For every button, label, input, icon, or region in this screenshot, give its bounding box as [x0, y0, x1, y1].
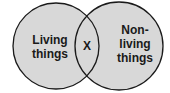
- non-living-things-label: Non- living things: [110, 23, 160, 65]
- intersection-label: X: [80, 39, 94, 53]
- living-things-label: Living things: [20, 33, 80, 61]
- venn-diagram: Living things X Non- living things: [0, 0, 170, 93]
